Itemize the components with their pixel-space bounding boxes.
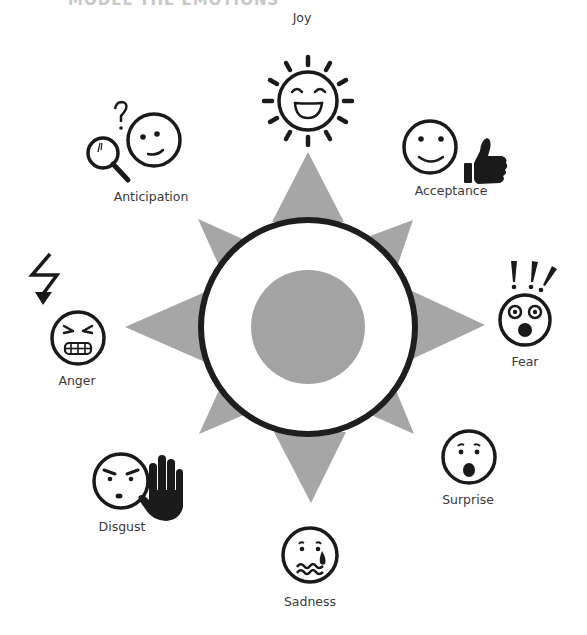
spike-right [410,290,485,360]
frown-face-stop-hand-icon [94,454,183,521]
label-joy: Joy [293,12,312,25]
label-anticipation: Anticipation [114,191,189,204]
label-surprise: Surprise [442,494,494,507]
magnifier-curious-face-icon [88,102,180,180]
label-fear: Fear [512,356,539,369]
label-anger: Anger [58,375,95,388]
smile-thumbs-up-icon [404,121,507,184]
spike-top [272,152,344,222]
stop-hand-glyph [138,455,183,521]
surprised-face-icon [443,431,495,483]
shocked-face-exclamation-icon [500,261,557,345]
core-disk [251,270,365,384]
label-disgust: Disgust [99,521,146,534]
crying-face-icon [283,528,337,582]
spike-left [125,292,205,362]
label-sadness: Sadness [284,596,336,609]
angry-face-lightning-icon [32,254,104,364]
thumbs-up-glyph [464,138,507,184]
spike-bottom [274,432,346,503]
emotion-wheel-diagram [0,0,587,635]
label-acceptance: Acceptance [415,185,488,198]
sun-face-icon [264,57,352,145]
